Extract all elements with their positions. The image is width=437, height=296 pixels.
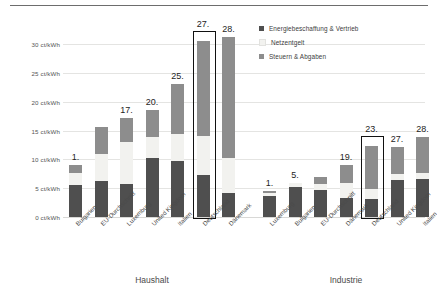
bar-segment-0 <box>314 190 327 217</box>
bar-segment-2 <box>95 127 108 154</box>
bar-segment-0 <box>95 181 108 217</box>
rank-label-17: 17. <box>120 105 133 115</box>
bar-segment-2 <box>197 41 210 136</box>
rank-label-1: 1. <box>72 152 80 162</box>
bar-industrie-luxemburg[interactable] <box>263 191 276 217</box>
rank-label-1: 1. <box>266 178 274 188</box>
gridline-0 <box>63 217 425 218</box>
rank-label-19: 19. <box>340 152 353 162</box>
bar-segment-1 <box>222 158 235 193</box>
y-axis-labels: 0 ct/kWh5 ct/kWh10 ct/kWh15 ct/kWh20 ct/… <box>0 44 60 217</box>
legend-label: Netzentgelt <box>271 39 304 46</box>
gridline-25 <box>63 73 425 74</box>
bar-segment-2 <box>146 110 159 137</box>
y-tick-label-5: 5 ct/kWh <box>35 185 60 192</box>
group-label-haushalt: Haushalt <box>135 275 169 285</box>
bar-segment-2 <box>365 146 378 189</box>
bar-haushalt-deutschland[interactable] <box>197 41 210 217</box>
bar-segment-1 <box>120 142 133 184</box>
rank-label-20: 20. <box>146 97 159 107</box>
group-label-industrie: Industrie <box>330 275 363 285</box>
bar-segment-2 <box>69 165 82 174</box>
header-divider <box>10 5 428 6</box>
gridline-20 <box>63 102 425 103</box>
rank-label-27: 27. <box>391 134 404 144</box>
legend-swatch-icon <box>259 54 264 59</box>
bar-segment-2 <box>391 147 404 174</box>
y-tick-label-15: 15 ct/kWh <box>32 127 60 134</box>
chart-legend: Energiebeschaffung & VertriebNetzentgelt… <box>259 21 434 63</box>
bar-segment-2 <box>120 118 133 142</box>
bar-segment-2 <box>171 84 184 134</box>
rank-label-25: 25. <box>171 71 184 81</box>
rank-label-28: 28. <box>416 124 429 134</box>
bar-segment-0 <box>69 185 82 217</box>
y-tick-label-10: 10 ct/kWh <box>32 156 60 163</box>
x-axis-labels: BulgarienEU-DurchschnittLuxemburgUnited … <box>0 219 436 274</box>
legend-swatch-icon <box>259 39 266 46</box>
bar-haushalt-eu-durchschnitt[interactable] <box>95 127 108 217</box>
y-tick-label-30: 30 ct/kWh <box>32 41 60 48</box>
bar-segment-1 <box>95 154 108 182</box>
bar-segment-1 <box>146 137 159 158</box>
bar-segment-2 <box>222 37 235 159</box>
bar-segment-2 <box>340 165 353 183</box>
bar-segment-1 <box>197 136 210 175</box>
bar-segment-1 <box>365 189 378 199</box>
y-tick-label-20: 20 ct/kWh <box>32 98 60 105</box>
rank-label-5: 5. <box>291 170 299 180</box>
bar-haushalt-bulgarien[interactable] <box>69 165 82 217</box>
bar-haushalt-d-nemark[interactable] <box>222 37 235 217</box>
bar-segment-2 <box>416 137 429 173</box>
rank-label-27: 27. <box>197 19 210 29</box>
rank-label-28: 28. <box>222 24 235 34</box>
bar-segment-1 <box>69 173 82 185</box>
legend-label: Energiebeschaffung & Vertrieb <box>269 25 358 32</box>
legend-item-1[interactable]: Netzentgelt <box>259 35 434 49</box>
y-tick-label-25: 25 ct/kWh <box>32 69 60 76</box>
rank-label-23: 23. <box>365 124 378 134</box>
bar-segment-1 <box>171 134 184 161</box>
bar-segment-0 <box>263 196 276 217</box>
legend-item-0[interactable]: Energiebeschaffung & Vertrieb <box>259 21 434 35</box>
bar-segment-0 <box>197 175 210 217</box>
legend-label: Steuern & Abgaben <box>269 53 326 60</box>
bar-industrie-eu-durchschnitt[interactable] <box>314 177 327 217</box>
bar-segment-2 <box>314 177 327 184</box>
legend-swatch-icon <box>259 26 264 31</box>
legend-item-2[interactable]: Steuern & Abgaben <box>259 49 434 63</box>
